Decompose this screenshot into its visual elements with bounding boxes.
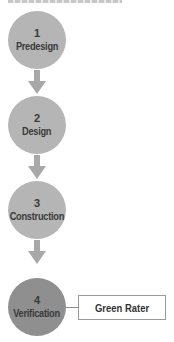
step-label: Predesign xyxy=(16,40,58,53)
step-number: 1 xyxy=(34,27,40,40)
step-construction: 3 Construction xyxy=(8,181,66,239)
step-label: Verification xyxy=(14,307,61,320)
connector-line xyxy=(66,307,78,308)
green-rater-box: Green Rater xyxy=(78,295,166,320)
step-label: Design xyxy=(22,125,51,138)
arrow-down-icon xyxy=(28,70,46,94)
step-number: 4 xyxy=(34,294,40,307)
step-number: 2 xyxy=(34,112,40,125)
step-predesign: 1 Predesign xyxy=(8,11,66,69)
step-design: 2 Design xyxy=(8,96,66,154)
step-verification: 4 Verification xyxy=(8,278,66,336)
arrow-down-icon xyxy=(28,240,46,264)
step-number: 3 xyxy=(34,197,40,210)
green-rater-label: Green Rater xyxy=(95,302,149,314)
cropped-title-strip xyxy=(8,0,122,3)
arrow-down-icon xyxy=(28,155,46,179)
step-label: Construction xyxy=(10,210,64,223)
